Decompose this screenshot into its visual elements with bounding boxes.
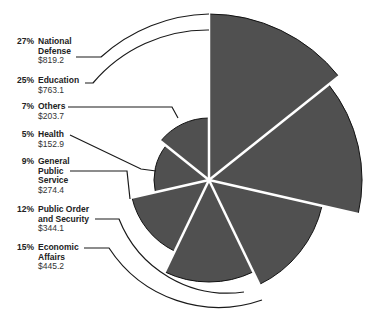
label-value: $203.7 <box>38 112 65 122</box>
label-pct: 25% <box>17 76 34 86</box>
label-value: $344.1 <box>38 224 89 234</box>
label-pct: 7% <box>22 102 34 112</box>
label-pct: 12% <box>17 205 34 215</box>
label-economic-affairs: 15% Economic Affairs $445.2 <box>38 243 79 272</box>
label-health: 5% Health $152.9 <box>38 130 64 149</box>
connector-national-defense <box>76 14 209 57</box>
label-general-public-service: 9% General Public Service $274.4 <box>38 157 70 195</box>
label-public-order-security: 12% Public Order and Security $344.1 <box>38 205 89 234</box>
label-national-defense: 27% National Defense $819.2 <box>38 37 72 66</box>
label-education: 25% Education $763.1 <box>38 76 79 95</box>
label-pct: 27% <box>17 37 34 47</box>
label-others: 7% Others $203.7 <box>38 102 65 121</box>
label-value: $819.2 <box>38 56 72 66</box>
label-value: $274.4 <box>38 186 70 196</box>
label-value: $763.1 <box>38 86 79 96</box>
connector-health <box>70 135 156 171</box>
label-pct: 9% <box>22 157 34 167</box>
label-value: $152.9 <box>38 140 64 150</box>
connector-others <box>68 107 178 118</box>
label-value: $445.2 <box>38 262 79 272</box>
label-pct: 5% <box>22 130 34 140</box>
connector-education <box>85 30 209 83</box>
label-pct: 15% <box>17 243 34 253</box>
wedges <box>130 12 362 286</box>
connector-gps <box>70 171 130 199</box>
